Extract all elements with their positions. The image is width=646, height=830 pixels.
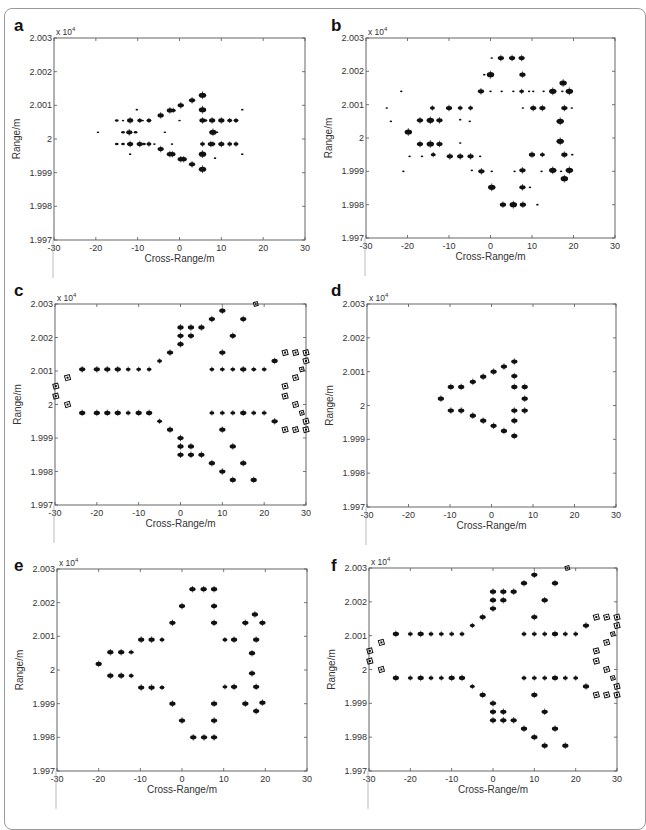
y-tick-label: 1.998 xyxy=(30,467,53,477)
x-tick-label: -20 xyxy=(401,241,414,251)
y-axis-multiplier: x 104 xyxy=(371,556,391,567)
x-tick-label: -20 xyxy=(90,508,103,518)
y-tick-label: 1.997 xyxy=(30,500,53,510)
y-tick-label: 2.001 xyxy=(344,631,367,641)
y-axis-multiplier: x 104 xyxy=(59,557,79,568)
point-marker xyxy=(512,90,515,92)
y-tick-label: 2.001 xyxy=(32,631,55,641)
point-marker xyxy=(408,155,411,157)
x-axis-label: Cross-Range/m xyxy=(458,784,528,795)
point-marker xyxy=(560,170,563,172)
panel-c: c -30-20-1001020301.9971.9981.99922.0012… xyxy=(0,265,317,533)
point-marker xyxy=(122,120,125,122)
y-axis-label: Range/m xyxy=(323,118,334,159)
x-tick-label: 20 xyxy=(569,510,579,520)
plot-area xyxy=(366,38,615,238)
y-tick-label: 2.002 xyxy=(342,333,365,343)
y-tick-label: 2.002 xyxy=(30,333,53,343)
y-tick-label: 1.999 xyxy=(341,166,364,176)
plot-area xyxy=(57,569,307,771)
point-marker xyxy=(241,153,244,155)
y-tick-label: 2 xyxy=(360,401,365,411)
point-marker xyxy=(459,142,462,144)
x-axis-label: Cross-Range/m xyxy=(456,520,526,531)
point-marker xyxy=(479,155,482,157)
x-tick-label: 10 xyxy=(529,774,539,784)
scatter-plot-e: -30-20-1001020301.9971.9981.99922.0012.0… xyxy=(0,540,317,815)
x-tick-label: -10 xyxy=(442,241,455,251)
point-marker xyxy=(214,157,217,159)
x-tick-label: -20 xyxy=(89,243,102,253)
scatter-plot-d: -30-20-1001020301.9971.9981.99922.0012.0… xyxy=(317,265,634,540)
point-marker xyxy=(490,57,493,59)
plot-area xyxy=(54,38,305,240)
y-tick-label: 2.001 xyxy=(29,100,52,110)
y-axis-multiplier: x 104 xyxy=(56,26,76,37)
y-tick-label: 1.998 xyxy=(32,732,55,742)
point-marker xyxy=(400,90,403,92)
x-tick-label: 10 xyxy=(216,243,226,253)
y-tick-label: 2.002 xyxy=(341,66,364,76)
y-axis-multiplier: x 104 xyxy=(368,26,388,37)
x-tick-label: 0 xyxy=(178,508,183,518)
point-marker xyxy=(483,74,486,76)
x-tick-label: 30 xyxy=(302,774,312,784)
y-tick-label: 1.997 xyxy=(29,235,52,245)
y-tick-label: 1.999 xyxy=(344,698,367,708)
point-marker xyxy=(178,120,181,122)
point-marker xyxy=(490,170,493,172)
scatter-plot-c: -30-20-1001020301.9971.9981.99922.0012.0… xyxy=(0,265,317,540)
y-tick-label: 2.001 xyxy=(30,366,53,376)
point-marker xyxy=(141,120,144,122)
point-marker xyxy=(97,131,100,133)
point-marker xyxy=(121,131,125,134)
x-tick-label: 10 xyxy=(527,241,537,251)
y-axis-label: Range/m xyxy=(11,119,22,160)
x-tick-label: 20 xyxy=(568,241,578,251)
y-tick-label: 1.997 xyxy=(344,766,367,776)
point-marker xyxy=(241,109,244,111)
y-axis-label: Range/m xyxy=(326,649,337,690)
y-tick-label: 2.003 xyxy=(342,299,365,309)
x-axis-label: Cross-Range/m xyxy=(147,784,217,795)
point-marker xyxy=(390,120,393,122)
y-tick-label: 1.998 xyxy=(344,732,367,742)
y-tick-label: 2.003 xyxy=(29,33,52,43)
x-axis-label: Cross-Range/m xyxy=(455,251,525,262)
y-tick-label: 1.998 xyxy=(342,468,365,478)
x-tick-label: -10 xyxy=(445,774,458,784)
point-marker xyxy=(129,153,132,155)
x-axis-label: Cross-Range/m xyxy=(145,518,215,529)
y-tick-label: 2.002 xyxy=(344,597,367,607)
point-marker xyxy=(500,90,503,92)
y-tick-label: 1.999 xyxy=(30,433,53,443)
y-tick-label: 1.997 xyxy=(32,766,55,776)
point-marker xyxy=(529,186,532,188)
point-marker xyxy=(134,131,138,134)
point-marker xyxy=(136,109,139,111)
x-tick-label: 20 xyxy=(258,243,268,253)
x-tick-label: -10 xyxy=(134,774,147,784)
x-tick-label: 10 xyxy=(217,508,227,518)
x-tick-label: 0 xyxy=(177,243,182,253)
y-tick-label: 2 xyxy=(359,133,364,143)
point-marker xyxy=(386,107,389,109)
point-marker xyxy=(532,90,535,92)
point-marker xyxy=(171,143,174,145)
x-tick-label: 0 xyxy=(179,774,184,784)
point-marker xyxy=(121,143,125,146)
x-tick-label: -10 xyxy=(131,243,144,253)
y-tick-label: 1.998 xyxy=(29,201,52,211)
y-tick-label: 2.003 xyxy=(30,299,53,309)
y-tick-label: 1.999 xyxy=(32,699,55,709)
point-marker xyxy=(522,107,525,109)
x-tick-label: 20 xyxy=(260,774,270,784)
point-marker xyxy=(540,170,543,172)
y-axis-multiplier: x 104 xyxy=(369,292,389,303)
y-tick-label: 2.001 xyxy=(342,367,365,377)
plot-area xyxy=(367,304,616,507)
y-axis-label: Range/m xyxy=(324,385,335,426)
x-tick-label: 0 xyxy=(489,510,494,520)
y-tick-label: 2 xyxy=(47,134,52,144)
y-tick-label: 2.003 xyxy=(32,564,55,574)
